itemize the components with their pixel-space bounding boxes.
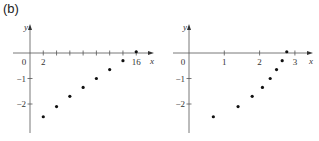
data-point (42, 115, 45, 118)
chart-panel-1: yx0216−1−2 (13, 22, 154, 133)
y-tick-label: −1 (175, 74, 185, 84)
data-point (236, 105, 239, 108)
data-point (275, 68, 278, 71)
data-point (95, 77, 98, 80)
y-tick-label: −1 (16, 74, 26, 84)
data-point (82, 86, 85, 89)
x-axis-arrow-icon (307, 51, 313, 55)
x-tick-label: 1 (222, 57, 227, 67)
x-axis-arrow-icon (148, 51, 154, 55)
scatter-charts: yx0216−1−2yx0123−1−2 (0, 0, 319, 141)
data-point (68, 95, 71, 98)
x-tick-label: 3 (293, 57, 298, 67)
data-point (108, 68, 111, 71)
chart-panel-2: yx0123−1−2 (173, 22, 313, 133)
data-point (121, 59, 124, 62)
data-point (251, 95, 254, 98)
y-axis-label: y (182, 22, 187, 32)
x-axis-label: x (149, 56, 154, 66)
x-tick-label: 2 (257, 57, 262, 67)
data-point (55, 105, 58, 108)
x-tick-label: 2 (41, 57, 46, 67)
y-tick-label: −2 (175, 99, 185, 109)
x-tick-label: 0 (22, 57, 27, 67)
x-axis-label: x (308, 56, 313, 66)
y-tick-label: −2 (16, 99, 26, 109)
data-point (261, 86, 264, 89)
y-axis-label: y (23, 22, 28, 32)
data-point (135, 50, 138, 53)
data-point (212, 115, 215, 118)
x-tick-label: 16 (132, 57, 142, 67)
x-tick-label: 0 (181, 57, 186, 67)
data-point (281, 59, 284, 62)
y-axis-arrow-icon (28, 24, 32, 30)
data-point (269, 77, 272, 80)
data-point (285, 50, 288, 53)
y-axis-arrow-icon (187, 24, 191, 30)
